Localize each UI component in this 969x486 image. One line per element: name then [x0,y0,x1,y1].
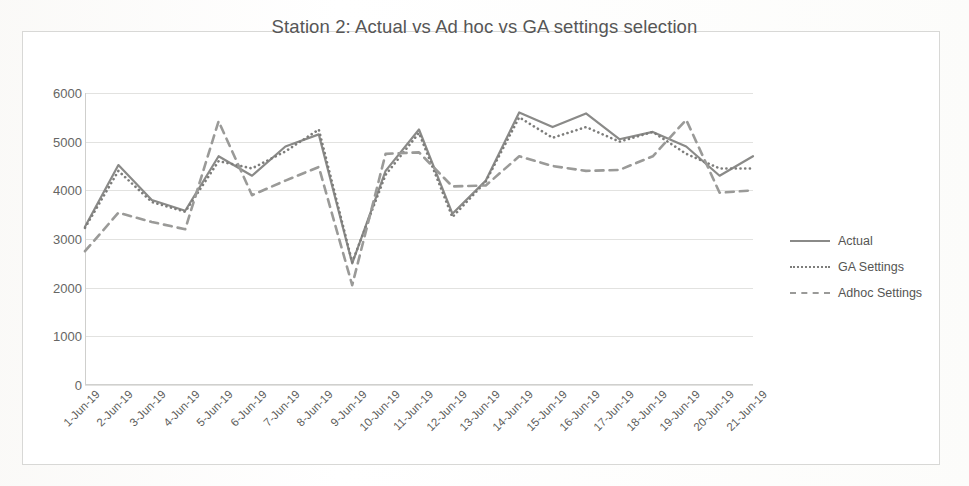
legend-swatch-dashed [790,288,830,298]
y-axis-tick-label: 0 [22,378,82,393]
y-axis-tick-label: 1000 [22,329,82,344]
chart-title: Station 2: Actual vs Ad hoc vs GA settin… [0,16,969,38]
gridline [85,385,753,386]
y-axis-tick-label: 6000 [22,86,82,101]
legend-item[interactable]: Actual [790,228,940,254]
y-axis-tick-label: 5000 [22,134,82,149]
series-lines [85,93,753,385]
series-line [85,117,753,262]
series-line [85,120,753,285]
plot-area: 6000500040003000200010000 1-Jun-192-Jun-… [85,93,753,385]
legend-label: Adhoc Settings [838,286,922,300]
chart-legend: ActualGA SettingsAdhoc Settings [790,228,940,306]
y-axis-tick-label: 4000 [22,183,82,198]
y-axis-tick-label: 3000 [22,232,82,247]
chart-screenshot: Station 2: Actual vs Ad hoc vs GA settin… [0,0,969,486]
y-axis-tick-label: 2000 [22,280,82,295]
legend-label: GA Settings [838,260,904,274]
legend-swatch-solid [790,236,830,246]
series-line [85,112,753,263]
legend-item[interactable]: Adhoc Settings [790,280,940,306]
legend-label: Actual [838,234,873,248]
legend-item[interactable]: GA Settings [790,254,940,280]
legend-swatch-dotted [790,262,830,272]
